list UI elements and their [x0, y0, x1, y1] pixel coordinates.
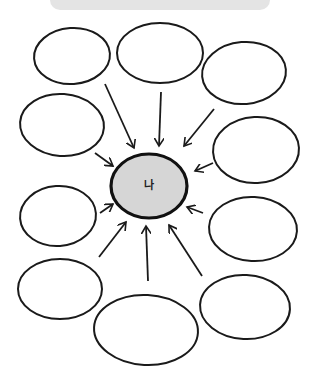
bubble-bottom-center [92, 292, 200, 367]
bubble-top-left [32, 25, 112, 86]
bubble-top-center [117, 23, 203, 83]
center-node-label: 나 [134, 176, 164, 192]
arrow-from-top-left [105, 84, 134, 148]
arrow-from-top-center [159, 92, 161, 146]
arrow-from-left-lower [99, 222, 126, 257]
bubble-left-lower [18, 259, 102, 319]
arrow-from-right-upper [195, 163, 213, 171]
arrow-from-left-middle [100, 204, 113, 213]
bubble-left-middle [18, 183, 98, 248]
bubble-right-middle [207, 195, 298, 264]
arrow-from-right-middle [187, 207, 203, 213]
bubble-right-lower [198, 273, 291, 342]
arrow-from-left-upper [95, 153, 113, 166]
arrow-from-top-right [184, 109, 214, 146]
bubble-top-right [199, 38, 288, 107]
bubble-left-upper [18, 91, 106, 159]
arrow-from-bottom-center [146, 226, 148, 281]
bubble-right-upper [211, 115, 300, 185]
arrow-from-right-lower [169, 225, 202, 276]
mind-map-diagram [0, 0, 319, 389]
